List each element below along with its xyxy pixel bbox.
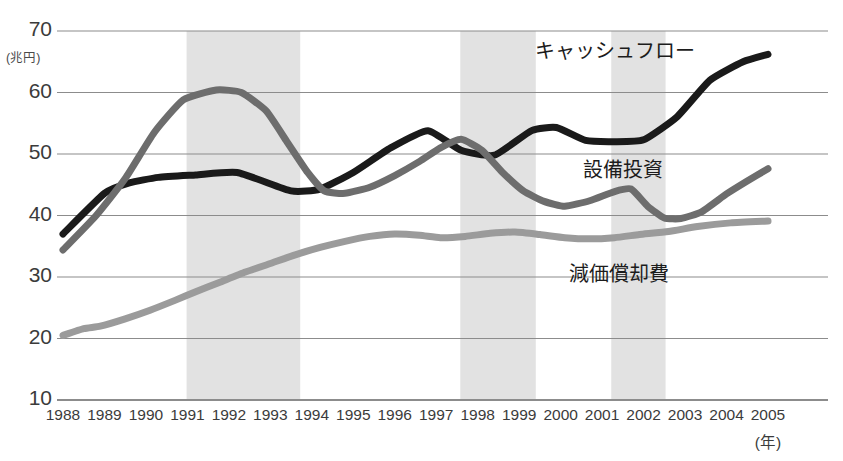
series-label-2: 設備投資 — [583, 154, 663, 183]
series-label-1: キャッシュフロー — [535, 35, 695, 64]
x-axis-tick-1995: 1995 — [330, 406, 376, 424]
chart-container: 10203040506070(兆円)1988198919901991199219… — [0, 0, 843, 461]
y-axis-tick-70: 70 — [6, 17, 52, 41]
x-axis-tick-1991: 1991 — [164, 406, 210, 424]
y-axis-tick-50: 50 — [6, 140, 52, 164]
x-axis-tick-1992: 1992 — [206, 406, 252, 424]
x-axis-tick-2002: 2002 — [621, 406, 667, 424]
x-axis-tick-1997: 1997 — [413, 406, 459, 424]
x-axis-tick-1999: 1999 — [496, 406, 542, 424]
x-axis-tick-2004: 2004 — [704, 406, 750, 424]
x-axis-unit-label: (年) — [745, 430, 791, 452]
y-axis-tick-30: 30 — [6, 263, 52, 287]
x-axis-tick-2001: 2001 — [579, 406, 625, 424]
x-axis-tick-2005: 2005 — [745, 406, 791, 424]
series-label-3: 減価償却費 — [569, 258, 669, 287]
x-axis-tick-2003: 2003 — [662, 406, 708, 424]
x-axis-tick-1988: 1988 — [40, 406, 86, 424]
y-axis-tick-60: 60 — [6, 79, 52, 103]
y-axis-tick-20: 20 — [6, 325, 52, 349]
chart-plot-area — [0, 0, 843, 461]
x-axis-tick-1996: 1996 — [372, 406, 418, 424]
y-axis-tick-40: 40 — [6, 202, 52, 226]
x-axis-tick-1998: 1998 — [455, 406, 501, 424]
y-axis-unit-label: (兆円) — [6, 47, 40, 66]
x-axis-tick-2000: 2000 — [538, 406, 584, 424]
x-axis-tick-1994: 1994 — [289, 406, 335, 424]
x-axis-tick-1990: 1990 — [123, 406, 169, 424]
x-axis-tick-1993: 1993 — [247, 406, 293, 424]
x-axis-tick-1989: 1989 — [81, 406, 127, 424]
